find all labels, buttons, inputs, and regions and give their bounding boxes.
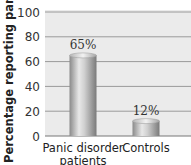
y-tick-100: 100 [17, 6, 40, 20]
y-tick-labels: 020406080100 [17, 6, 40, 144]
category-label-0-line-0: Panic disorder [42, 141, 123, 155]
y-axis-label: Percentage reporting panic [2, 0, 16, 163]
bar-1 [133, 119, 160, 136]
category-label-0-line-1: patients [60, 154, 107, 165]
y-tick-60: 60 [25, 55, 40, 69]
category-label-1-line-0: Controls [122, 141, 170, 155]
plot-area [45, 10, 191, 136]
data-label-1: 12% [133, 104, 160, 118]
bar-0 [70, 53, 97, 136]
category-labels: Panic disorderpatientsControls [42, 141, 169, 165]
data-label-0: 65% [70, 38, 97, 52]
y-tick-20: 20 [25, 105, 40, 119]
bar-cap [133, 119, 160, 124]
bar-cap [70, 53, 97, 58]
y-tick-40: 40 [25, 80, 40, 94]
y-tick-80: 80 [25, 30, 40, 44]
y-tick-0: 0 [32, 130, 40, 144]
bar-chart: 020406080100 65%12% Panic disorderpatien… [0, 0, 191, 165]
bar-body [70, 55, 97, 136]
